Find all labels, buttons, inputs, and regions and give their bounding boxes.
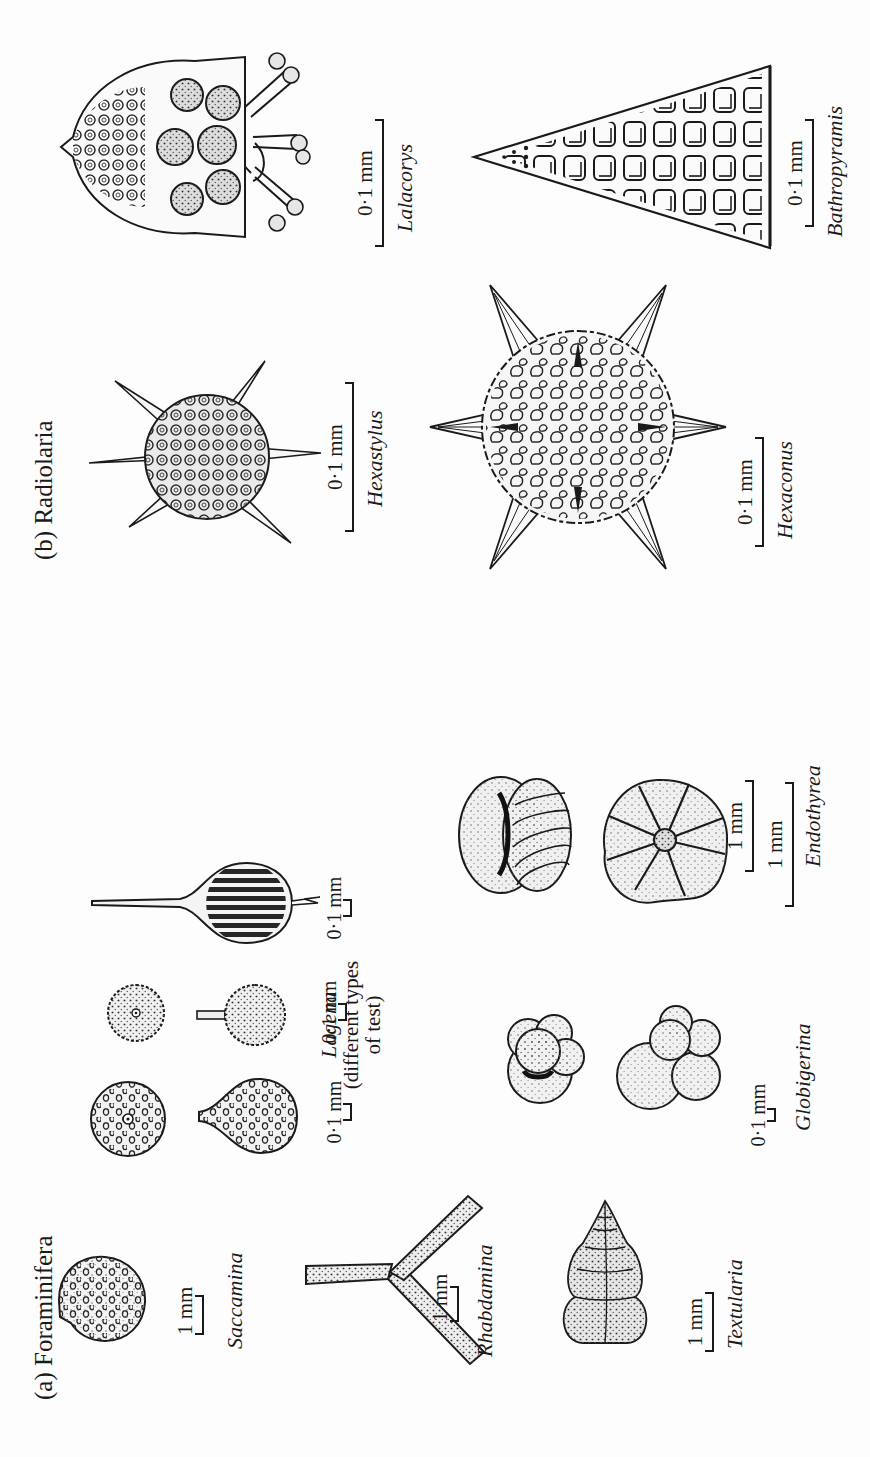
lagena-scale-bar-1: 0·1 mm [300,1103,352,1121]
lagena-reticulate-apertural-drawing [88,1079,168,1159]
hexastylus-scale-bar: 0·1 mm [320,382,354,532]
scale-bracket [745,780,754,872]
lagena-costate-drawing [90,859,322,949]
rhabdamina-drawing [300,1182,500,1372]
rhabdamina-scale-bar: 1 mm [425,1286,459,1322]
lalacorys-drawing [55,17,305,277]
textularia-drawing [555,1197,655,1347]
endothyrea-scale-bar-1: 1 mm [720,780,754,872]
hexaconus-label: Hexaconus [772,441,798,539]
endothyrea-side-drawing [595,772,735,912]
scale-bracket [805,119,814,227]
bathropyramis-label: Bathropyramis [822,106,848,237]
scale-bracket [755,437,764,547]
textularia-label: Textularia [722,1259,748,1349]
scale-bracket [375,119,384,247]
figure-page: (a) Foraminifera 1 mm Saccamina [0,0,870,1457]
rhabdamina-label: Rhabdamina [472,1245,498,1357]
scale-bracket [195,1295,204,1335]
lagena-spinose-side-drawing [195,977,290,1052]
scale-bracket [345,382,354,532]
textularia-scale-bar: 1 mm [680,1292,714,1352]
endothyrea-scale-bar-2: 1 mm [760,782,794,907]
lagena-label: Lagena [318,955,340,1095]
lalacorys-scale-bar: 0·1 mm [350,119,384,247]
radiolaria-section-title: (b) Radiolaria [30,420,58,560]
scale-bracket [450,1286,459,1322]
lagena-reticulate-side-drawing [195,1074,300,1159]
lagena-note-line-2: of test) [362,955,384,1095]
globigerina-spiral-drawing [612,1002,722,1112]
hexaconus-drawing [428,277,728,577]
bathropyramis-scale-bar: 0·1 mm [780,119,814,227]
scale-bracket [343,899,352,917]
endothyrea-label: Endothyrea [800,765,826,867]
globigerina-umbilical-drawing [488,1012,588,1107]
scale-bracket [343,1103,352,1121]
hexastylus-drawing [85,357,325,557]
lagena-note-line-1: (different types [340,955,362,1095]
lalacorys-label: Lalacorys [392,144,418,232]
hexastylus-label: Hexastylus [362,410,388,507]
saccamina-label: Saccamina [222,1252,248,1349]
scale-bracket [705,1292,714,1352]
lagena-scale-bar-3: 0·1 mm [300,899,352,917]
bathropyramis-drawing [470,62,780,252]
saccamina-scale-bar: 1 mm [170,1295,204,1335]
scale-bracket [785,782,794,907]
saccamina-drawing [55,1252,150,1347]
foraminifera-section-title: (a) Foraminifera [30,1235,58,1400]
globigerina-scale-bar: 0·1 mm [728,1108,776,1122]
lagena-caption: Lagena (different types of test) [318,955,384,1095]
globigerina-label: Globigerina [790,1023,816,1131]
scale-bracket [767,1108,776,1122]
lagena-spinose-apertural-drawing [105,982,167,1044]
endothyrea-edge-drawing [455,767,575,897]
hexaconus-scale-bar: 0·1 mm [730,437,764,547]
figure-panel: (a) Foraminifera 1 mm Saccamina [0,0,870,1457]
